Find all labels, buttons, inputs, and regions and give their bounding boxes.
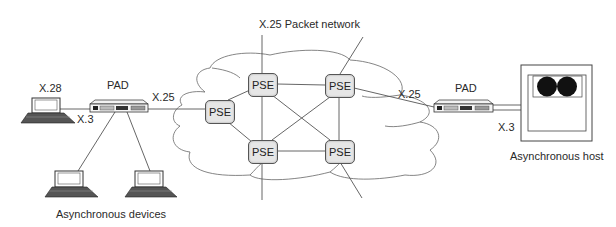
x25-right-label: X.25: [398, 88, 421, 100]
laptop-icon-bottom-1: [45, 171, 98, 197]
pad-device-right: [434, 100, 493, 112]
x25-network-diagram: PSE PSE PSE PSE PSE X.25 Packet network …: [0, 0, 616, 227]
pad-left-label: PAD: [107, 79, 129, 91]
pad-device-left: [90, 100, 148, 112]
host-caption: Asynchronous host: [510, 150, 604, 162]
laptop-icon-bottom-2: [125, 171, 177, 197]
pse-node-left: PSE: [205, 100, 235, 124]
pse-node-bottom-right: PSE: [325, 140, 355, 164]
host-computer-icon: [521, 65, 592, 141]
pse-node-bottom-left: PSE: [248, 140, 278, 164]
x28-label: X.28: [39, 82, 62, 94]
x25-left-label: X.25: [152, 91, 175, 103]
x3-left-label: X.3: [77, 113, 94, 125]
pad-right-label: PAD: [455, 82, 477, 94]
x3-right-label: X.3: [498, 121, 515, 133]
laptop-icon-left: [21, 98, 75, 123]
pse-node-top-left: PSE: [248, 73, 278, 97]
devices-caption: Asynchronous devices: [56, 208, 166, 220]
network-title: X.25 Packet network: [259, 18, 360, 30]
pse-node-top-right: PSE: [325, 74, 355, 98]
